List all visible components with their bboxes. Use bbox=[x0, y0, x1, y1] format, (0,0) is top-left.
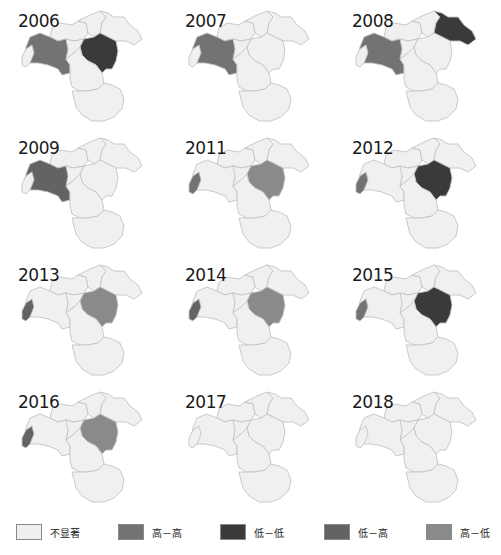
panel-year-label: 2007 bbox=[185, 11, 226, 31]
legend-label: 不显著 bbox=[50, 525, 80, 540]
map-region-f bbox=[22, 426, 34, 448]
map-region-f bbox=[356, 172, 368, 194]
legend-item-not-significant: 不显著 bbox=[16, 522, 80, 542]
map-region-f bbox=[356, 299, 368, 321]
map-region-f bbox=[22, 299, 34, 321]
legend-item-low-low: 低－低 bbox=[220, 522, 284, 542]
map-grid: 2006 2007 2008 2009 2011 2012 2013 2014 … bbox=[0, 0, 501, 510]
map-region-f bbox=[356, 45, 368, 67]
legend-swatch bbox=[426, 524, 452, 540]
map-panel: 2007 bbox=[167, 3, 334, 130]
map-panel: 2013 bbox=[0, 257, 167, 384]
panel-year-label: 2016 bbox=[18, 392, 59, 412]
legend-swatch bbox=[118, 524, 144, 540]
map-region-f bbox=[189, 45, 201, 67]
map-panel: 2009 bbox=[0, 130, 167, 257]
map-panel: 2006 bbox=[0, 3, 167, 130]
legend-item-low-high: 低－高 bbox=[324, 522, 388, 542]
legend-label: 低－低 bbox=[254, 525, 284, 540]
map-panel: 2012 bbox=[334, 130, 501, 257]
map-panel: 2008 bbox=[334, 3, 501, 130]
legend-swatch bbox=[16, 524, 42, 540]
map-region-f bbox=[189, 426, 201, 448]
panel-year-label: 2011 bbox=[185, 138, 226, 158]
legend-label: 低－高 bbox=[358, 525, 388, 540]
panel-year-label: 2014 bbox=[185, 265, 226, 285]
map-panel: 2016 bbox=[0, 384, 167, 511]
map-region-f bbox=[356, 426, 368, 448]
legend: 不显著 高－高 低－低 低－高 高－低 bbox=[0, 516, 501, 546]
legend-label: 高－高 bbox=[152, 525, 182, 540]
panel-year-label: 2012 bbox=[352, 138, 393, 158]
map-region-f bbox=[22, 172, 34, 194]
map-panel: 2014 bbox=[167, 257, 334, 384]
map-panel: 2015 bbox=[334, 257, 501, 384]
map-region-f bbox=[22, 45, 34, 67]
panel-year-label: 2008 bbox=[352, 11, 393, 31]
panel-year-label: 2006 bbox=[18, 11, 59, 31]
legend-label: 高－低 bbox=[460, 525, 490, 540]
panel-year-label: 2013 bbox=[18, 265, 59, 285]
panel-year-label: 2009 bbox=[18, 138, 59, 158]
map-panel: 2018 bbox=[334, 384, 501, 511]
map-panel: 2011 bbox=[167, 130, 334, 257]
map-region-f bbox=[189, 172, 201, 194]
panel-year-label: 2015 bbox=[352, 265, 393, 285]
legend-item-high-low: 高－低 bbox=[426, 522, 490, 542]
map-region-f bbox=[189, 299, 201, 321]
legend-item-high-high: 高－高 bbox=[118, 522, 182, 542]
legend-swatch bbox=[220, 524, 246, 540]
legend-swatch bbox=[324, 524, 350, 540]
map-panel: 2017 bbox=[167, 384, 334, 511]
panel-year-label: 2018 bbox=[352, 392, 393, 412]
panel-year-label: 2017 bbox=[185, 392, 226, 412]
